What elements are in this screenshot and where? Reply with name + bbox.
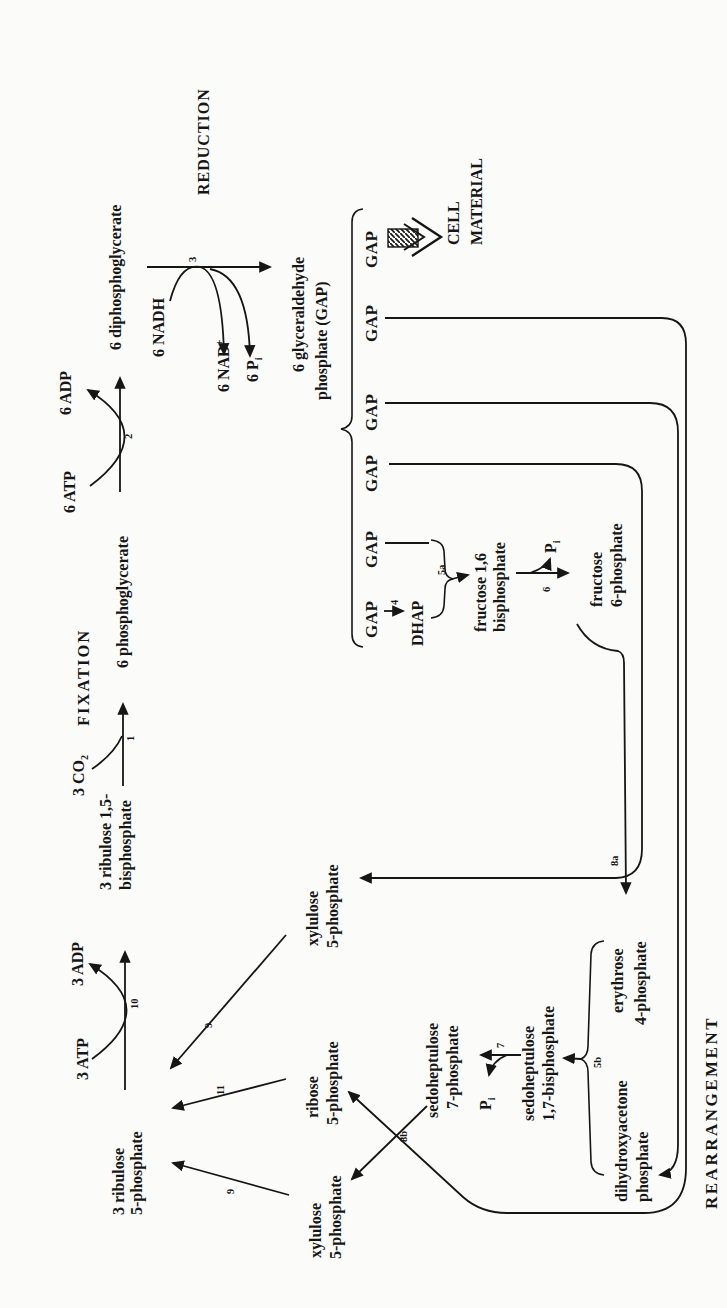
xylulose-left-line2: 5-phosphate	[328, 1175, 344, 1259]
pga-label: 6 phosphoglycerate	[115, 536, 131, 668]
nadh-label: 6 NADH	[151, 298, 167, 357]
heading-reduction: REDUCTION	[196, 88, 212, 195]
arrow-step5b	[564, 1058, 581, 1059]
arrow-9-right	[171, 935, 286, 1068]
gap-overbrace	[341, 209, 363, 647]
s7p-line1: sedoheptulose	[425, 1023, 441, 1118]
step8b-label: 8b	[399, 1131, 410, 1142]
sbp-line1: sedoheptulose	[521, 1026, 537, 1121]
arrow-8b-s7p-to-xylulose	[352, 1106, 427, 1179]
gap-4: GAP	[363, 455, 380, 492]
fbp-line1: fructose 1,6	[473, 553, 489, 632]
gap-5: GAP	[363, 531, 380, 568]
line-f6p-to-erythrose-8a	[577, 624, 626, 893]
dpg-label: 6 diphosphoglycerate	[108, 205, 124, 350]
f6p-line2: 6-phosphate	[609, 523, 625, 607]
step5a-label: 5a	[437, 565, 448, 576]
gap-product-line2: phosphate (GAP)	[314, 281, 330, 400]
gap-3: GAP	[363, 394, 380, 431]
dhap-full-line1: dihydroxyacetone	[614, 1081, 630, 1202]
f6p-line1: fructose	[589, 552, 605, 607]
pi-s-label: Pi	[478, 1097, 497, 1110]
brace-5a	[431, 540, 453, 618]
step1-label: 1	[126, 736, 137, 741]
step3-label: 3	[188, 257, 199, 262]
arrow-11	[173, 1079, 286, 1108]
loop-gap4-to-xylulose	[361, 464, 642, 878]
gap-2: GAP	[363, 305, 380, 342]
curve-atp-adp-2	[88, 390, 125, 486]
cell-material-arrow-icon	[388, 218, 441, 256]
ribulose5p-line1: 3 ribulose	[111, 1148, 127, 1215]
curve-atp-adp-10	[90, 964, 127, 1059]
calvin-cycle-diagram: FIXATION REDUCTION REARRANGEMENT 3 ribul…	[0, 0, 727, 1308]
xylulose-right-line2: 5-phosphate	[325, 864, 341, 948]
pi6-label: 6 Pi	[245, 357, 264, 382]
dhap-full-line2: phosphate	[635, 1132, 651, 1202]
xylulose-right-line1: xylulose	[305, 891, 321, 946]
curve-pi-step7	[489, 1055, 507, 1075]
arrow-step5a	[452, 575, 468, 579]
cell-material-line1: CELL	[446, 201, 462, 245]
loop-gap2	[349, 318, 686, 1213]
s7p-line2: 7-phosphate	[445, 1025, 461, 1109]
gap-product-line1: 6 glyceraldehyde	[291, 257, 307, 372]
gap-6: GAP	[363, 601, 380, 638]
sbp-line2: 1,7-bisphosphate	[541, 1006, 557, 1121]
fbp-line2: bisphosphate	[492, 542, 508, 632]
adp6-label: 6 ADP	[58, 371, 74, 415]
heading-fixation: FIXATION	[76, 629, 93, 726]
e4p-line2: 4-phosphate	[633, 941, 649, 1025]
pi-f-label: Pi	[543, 540, 562, 553]
xylulose-left-line1: xylulose	[308, 1203, 324, 1258]
gap-1: GAP	[363, 231, 380, 268]
rubp-line2: bisphosphate	[118, 800, 134, 890]
dhap-label: DHAP	[410, 601, 426, 646]
step7-label: 7	[496, 1043, 507, 1048]
ribose-line2: 5-phosphate	[325, 1041, 341, 1125]
atp6-label: 6 ATP	[62, 471, 78, 513]
step4-label: 4	[390, 600, 401, 605]
atp3-label: 3 ATP	[75, 1038, 91, 1080]
step10-label: 10	[130, 999, 141, 1010]
ribose-line1: ribose	[305, 1076, 321, 1118]
heading-rearrangement: REARRANGEMENT	[703, 1016, 720, 1209]
step5b-label: 5b	[593, 1057, 604, 1068]
step9-right-label: 9	[204, 1023, 215, 1028]
co2-label: 3 CO2	[71, 755, 90, 796]
curve-co2	[92, 736, 122, 769]
step11-label: 11	[216, 1085, 227, 1095]
nad-label: 6 NAD+	[215, 340, 232, 392]
step6-label: 6	[542, 587, 553, 592]
cell-material-line2: MATERIAL	[469, 158, 485, 245]
curve-pi-step6	[530, 559, 550, 573]
ribulose5p-line2: 5-phosphate	[129, 1131, 145, 1215]
step8a-label: 8a	[610, 856, 621, 867]
rubp-line1: 3 ribulose 1,5-	[98, 794, 114, 890]
e4p-line1: erythrose	[610, 948, 626, 1013]
adp3-label: 3 ADP	[70, 942, 86, 986]
diagram-stage: FIXATION REDUCTION REARRANGEMENT 3 ribul…	[0, 0, 727, 1308]
step9-left-label: 9	[226, 1189, 237, 1194]
step2-label: 2	[124, 434, 135, 439]
